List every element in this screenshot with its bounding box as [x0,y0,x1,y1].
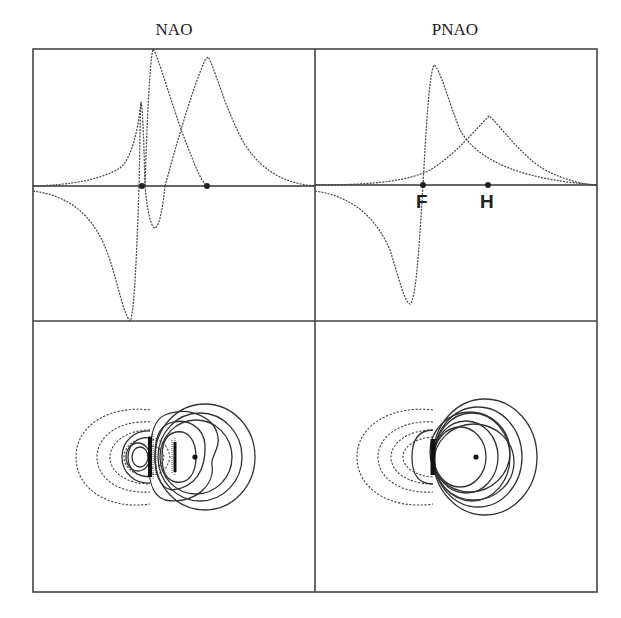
nao-profile-plot [33,49,315,321]
pnao-f-nucleus-dot [420,182,426,188]
pnao-contour-h-dot [473,454,478,459]
nao-curve-f-b [145,186,165,228]
nao-curve-h-b [165,57,315,186]
nao-f-nucleus-dot [139,183,145,189]
pnao-curve-h [315,116,597,185]
nao-contour-h-dot [192,454,197,459]
figure-canvas: F H [0,0,621,618]
pnao-contour-plot [357,399,537,515]
nao-curve-h [33,102,141,186]
nao-curve-f [33,102,145,321]
nao-contour-plot [76,404,255,510]
nao-curve-f-c [145,49,207,186]
panel-frame [33,49,597,592]
atom-label-f: F [416,191,428,212]
nao-positive-contours [122,404,255,510]
pnao-negative-contours [357,409,433,505]
atom-label-h: H [480,191,494,212]
pnao-profile-plot: F H [315,65,597,304]
pnao-h-nucleus-dot [485,182,491,188]
nao-h-nucleus-dot [204,183,210,189]
